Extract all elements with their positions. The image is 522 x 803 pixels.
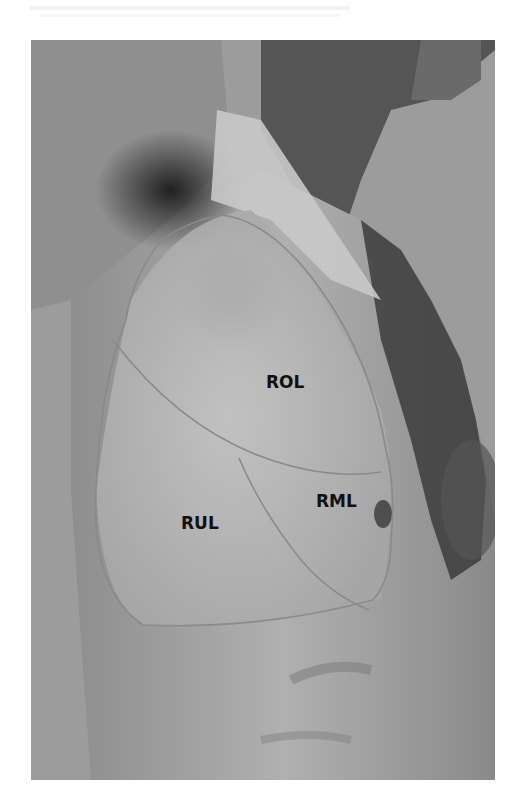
bleed-through-text bbox=[40, 14, 340, 17]
bleed-through-text bbox=[30, 6, 350, 10]
chest-illustration bbox=[31, 40, 495, 780]
chest-photo: ROL RML RUL bbox=[31, 40, 495, 780]
lobe-label-rml: RML bbox=[316, 491, 357, 511]
lobe-label-rol: ROL bbox=[266, 372, 304, 392]
lobe-label-rul: RUL bbox=[181, 513, 219, 533]
